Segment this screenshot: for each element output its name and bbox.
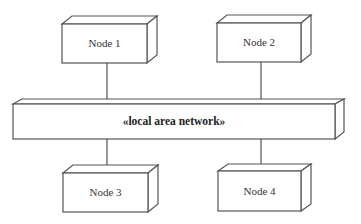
node-2[interactable]: Node 2 — [217, 15, 311, 62]
node-3-top-face — [63, 165, 158, 173]
node-2-label: Node 2 — [243, 36, 275, 48]
node-1[interactable]: Node 1 — [62, 16, 157, 63]
node-1-side-face — [147, 16, 157, 63]
lan-label: «local area network» — [123, 115, 226, 127]
deployment-diagram: Node 1 Node 2 «local area network» Node … — [0, 0, 361, 224]
node-4-top-face — [218, 164, 311, 171]
node-1-label: Node 1 — [88, 37, 120, 49]
node-3-label: Node 3 — [89, 186, 122, 198]
node-2-side-face — [301, 15, 311, 62]
node-1-top-face — [62, 16, 157, 24]
lan-side-face — [335, 99, 344, 139]
node-4-label: Node 4 — [243, 185, 276, 197]
lan-top-face — [13, 99, 344, 104]
node-2-top-face — [217, 15, 311, 23]
node-3-side-face — [148, 165, 158, 212]
local-area-network[interactable]: «local area network» — [13, 99, 344, 139]
node-4-side-face — [301, 164, 311, 211]
node-4[interactable]: Node 4 — [218, 164, 311, 211]
node-3[interactable]: Node 3 — [63, 165, 158, 212]
